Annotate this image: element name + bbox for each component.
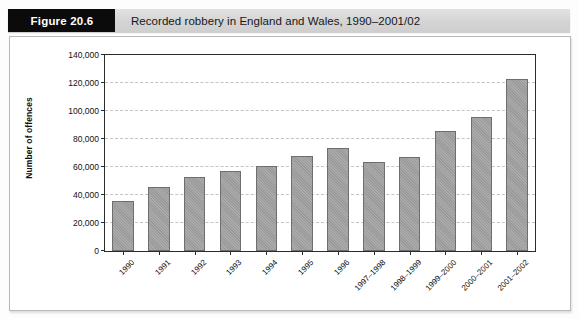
y-axis-tick-label: 0 [94, 246, 99, 256]
bar [112, 201, 134, 251]
x-axis-tick-mark [445, 251, 446, 255]
x-axis-tick-label: 2001–2002 [496, 258, 531, 293]
bar [327, 148, 349, 251]
y-axis-title: Number of offences [24, 83, 34, 193]
x-axis-tick-mark [123, 251, 124, 255]
figure-header: Figure 20.6 Recorded robbery in England … [8, 9, 570, 32]
bar [435, 131, 457, 251]
x-axis-tick-label: 1994 [261, 258, 280, 277]
bar [506, 79, 528, 251]
bar [399, 157, 421, 251]
bar [148, 187, 170, 251]
x-axis-tick-mark [410, 251, 411, 255]
x-axis-tick-mark [266, 251, 267, 255]
x-axis-tick-label: 1995 [296, 258, 315, 277]
bar [471, 117, 493, 251]
y-axis-tick-label: 20,000 [73, 218, 99, 228]
x-axis-tick-label: 1997–1998 [352, 258, 387, 293]
bar [184, 177, 206, 251]
y-axis-tick-label: 60,000 [73, 162, 99, 172]
bar [363, 162, 385, 251]
x-axis-tick-mark [302, 251, 303, 255]
x-axis-tick-mark [230, 251, 231, 255]
figure-number-tag: Figure 20.6 [8, 9, 115, 32]
y-axis-tick-label: 100,000 [68, 106, 99, 116]
x-axis-tick-label: 1990 [117, 258, 136, 277]
x-axis-tick-label: 1996 [332, 258, 351, 277]
bars-group [105, 55, 535, 251]
y-axis-tick-label: 40,000 [73, 190, 99, 200]
x-axis-tick-label: 2000–2001 [460, 258, 495, 293]
x-axis-tick-label: 1998–1999 [388, 258, 423, 293]
plot-area: 020,00040,00060,00080,000100,000120,0001… [104, 54, 536, 252]
bar [256, 166, 278, 251]
x-axis-tick-label: 1993 [225, 258, 244, 277]
bar [220, 171, 242, 252]
bar [291, 156, 313, 251]
x-axis-tick-label: 1991 [153, 258, 172, 277]
figure-page: Figure 20.6 Recorded robbery in England … [0, 0, 579, 319]
x-axis-tick-label: 1992 [189, 258, 208, 277]
y-axis-tick-label: 140,000 [68, 50, 99, 60]
y-axis-tick-label: 120,000 [68, 78, 99, 88]
x-axis-tick-mark [195, 251, 196, 255]
x-axis-tick-mark [338, 251, 339, 255]
x-axis-tick-mark [517, 251, 518, 255]
x-axis-tick-mark [374, 251, 375, 255]
x-axis-tick-label: 1999–2000 [424, 258, 459, 293]
x-axis-tick-mark [481, 251, 482, 255]
figure-caption: Recorded robbery in England and Wales, 1… [115, 9, 420, 32]
y-axis-tick-label: 80,000 [73, 134, 99, 144]
x-axis-tick-mark [159, 251, 160, 255]
chart-frame: Number of offences 020,00040,00060,00080… [9, 36, 571, 311]
